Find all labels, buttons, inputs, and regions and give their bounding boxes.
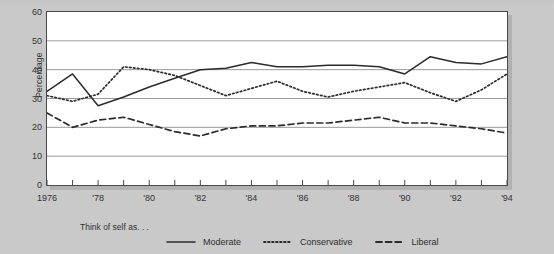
plot-svg [47,12,507,185]
y-tick-label: 40 [16,65,42,75]
x-tick-label: '94 [501,193,513,203]
y-axis-tick-labels: 6050403020100 [12,11,42,186]
series-line-liberal [47,113,507,136]
legend-caption: Think of self as. . . [80,222,149,232]
x-axis-tick-labels: 1976'78'80'82'84'86'88'90'92'94 [0,193,554,207]
x-tick-label: '78 [92,193,104,203]
series-line-conservative [47,67,507,102]
legend-label: Conservative [300,238,353,247]
legend-swatch-dotted-icon [263,237,293,247]
legend-label: Liberal [412,238,439,247]
x-tick-label: '86 [297,193,309,203]
chart-figure: Percentage 6050403020100 1976'78'80'82'8… [0,0,554,254]
x-tick-label: 1976 [37,193,57,203]
cropped-text-sliver [0,0,554,7]
x-tick-label: '84 [246,193,258,203]
y-tick-label: 0 [16,180,42,190]
legend-item-conservative: Conservative [263,237,353,247]
x-tick-label: '82 [194,193,206,203]
x-tick-label: '90 [399,193,411,203]
y-tick-label: 10 [16,151,42,161]
x-tick-label: '88 [348,193,360,203]
x-tick-label: '92 [450,193,462,203]
legend-item-moderate: Moderate [166,237,241,247]
legend-label: Moderate [203,238,241,247]
legend-swatch-dashed-icon [375,237,405,247]
y-tick-label: 60 [16,7,42,17]
y-tick-label: 30 [16,94,42,104]
legend-item-liberal: Liberal [375,237,439,247]
legend-swatch-solid-icon [166,237,196,247]
y-tick-label: 20 [16,122,42,132]
chart-legend: ModerateConservativeLiberal [166,237,461,247]
x-tick-label: '80 [143,193,155,203]
plot-area [46,11,508,186]
y-tick-label: 50 [16,36,42,46]
